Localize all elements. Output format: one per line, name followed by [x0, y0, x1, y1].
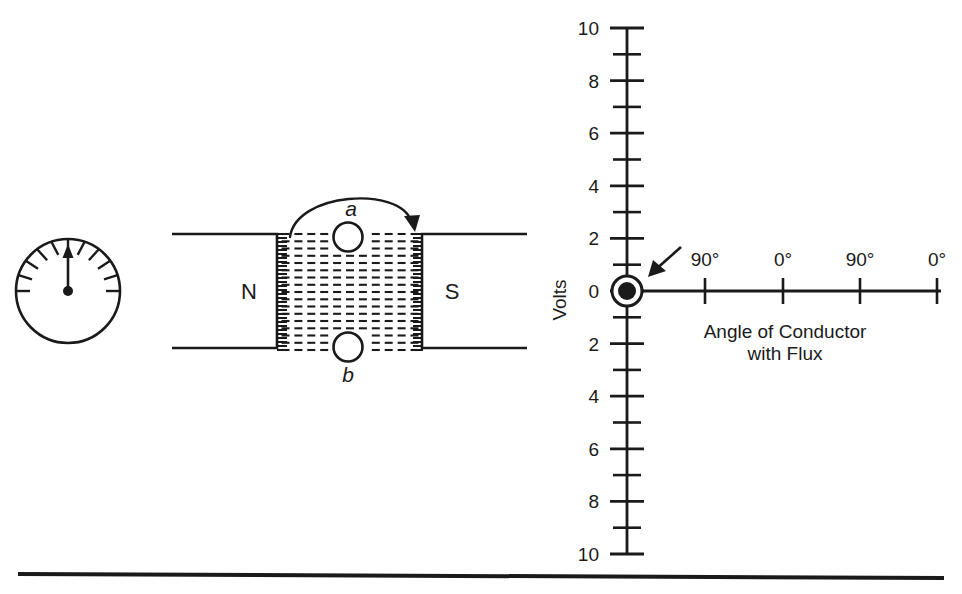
conductor-b-label: b [342, 363, 354, 386]
conductor-a-circle [334, 223, 363, 252]
figure-background [0, 0, 962, 594]
conductor-b-circle [334, 333, 363, 362]
physics-diagram-figure: N S a b 10864202 [0, 0, 962, 594]
x-axis-title-line1: Angle of Conductor [704, 321, 867, 342]
meter-pivot-dot [63, 286, 73, 296]
origin-marker [612, 276, 642, 306]
conductor-a-label: a [345, 197, 357, 220]
north-pole-label: N [241, 279, 257, 304]
y-tick-label: 10 [578, 18, 599, 39]
origin-center-dot [618, 282, 636, 300]
x-tick-label: 90° [691, 249, 720, 270]
y-tick-label: 2 [588, 334, 599, 355]
y-tick-label: 6 [588, 123, 599, 144]
y-tick-label: 8 [588, 491, 599, 512]
y-tick-label: 8 [588, 71, 599, 92]
x-axis-title-line2: with Flux [747, 343, 823, 364]
y-tick-label: 2 [588, 228, 599, 249]
y-tick-label: 4 [588, 176, 599, 197]
y-tick-label: 4 [588, 386, 599, 407]
y-tick-label: 10 [578, 544, 599, 565]
x-tick-label: 0° [928, 249, 946, 270]
x-tick-label: 0° [774, 249, 792, 270]
x-tick-label: 90° [846, 249, 875, 270]
y-tick-label: 6 [588, 439, 599, 460]
south-pole-label: S [445, 279, 460, 304]
y-tick-label: 0 [588, 281, 599, 302]
y-axis-title: Volts [549, 279, 570, 320]
